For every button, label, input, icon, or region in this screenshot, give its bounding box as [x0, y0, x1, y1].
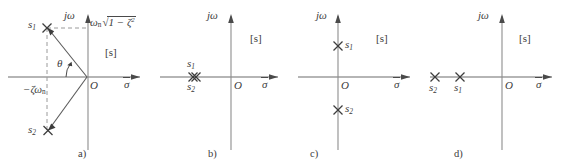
real-axis-label: σ [394, 79, 399, 90]
plane-label: [s] [519, 33, 531, 44]
real-axis-label: σ [536, 79, 541, 90]
imag-axis-arrowhead [335, 14, 341, 23]
panel-c-caption: c) [310, 148, 318, 159]
panel-c: jω σ [s] O s1 s2 c) [290, 0, 425, 168]
panel-d-caption: d) [454, 148, 463, 159]
pole-label-s1: s1 [345, 39, 353, 51]
real-axis-arrowhead [269, 74, 278, 80]
theta-arc-arrowhead [67, 62, 72, 67]
real-axis-label: σ [262, 79, 267, 90]
pole-label-s2-sub: 2 [349, 107, 353, 116]
pole-label-s2-sub: 2 [32, 128, 36, 137]
pole-label-s1: s1 [28, 19, 36, 31]
pole-label-s1: s1 [454, 82, 462, 94]
imag-axis-label: jω [64, 10, 75, 21]
square-root-expression: √1 − ζ2 [101, 16, 135, 28]
imag-axis-label: jω [478, 10, 489, 21]
pole-location-figure: jω σ [s] O s1 s2 θ −ζωn ωn√1 − ζ2 a) [0, 0, 566, 168]
sigma-glyph: σ [394, 79, 399, 90]
imag-axis-arrowhead [228, 14, 234, 23]
radicand-exponent: 2 [131, 16, 134, 23]
radius-vector-s1 [51, 32, 88, 78]
sigma-glyph: σ [124, 79, 129, 90]
origin-label: O [234, 80, 242, 91]
pole-label-s1: s1 [187, 58, 195, 70]
panel-c-axes [290, 0, 425, 168]
plane-label: [s] [250, 33, 262, 44]
sigma-glyph: σ [536, 79, 541, 90]
omega-n-base: ω [90, 16, 98, 28]
panel-d: jω σ [s] O s2 s1 d) [425, 0, 566, 168]
imag-axis-label: jω [207, 10, 218, 21]
pole-label-s1-sub: 1 [32, 23, 36, 32]
plane-label: [s] [376, 33, 388, 44]
imag-axis-arrowhead [499, 14, 505, 23]
sigma-glyph: σ [262, 79, 267, 90]
origin-label: O [90, 80, 98, 91]
radicand: 1 − ζ2 [107, 16, 135, 28]
pole-label-s2: s2 [429, 82, 437, 94]
panel-b: jω σ [s] O s1 s2 b) [150, 0, 290, 168]
real-axis-arrowhead [401, 74, 410, 80]
origin-label: O [505, 80, 513, 91]
pole-label-s2-sub: 2 [433, 86, 437, 95]
real-part-base: −ζω [23, 83, 42, 95]
real-part-sub: n [42, 88, 46, 96]
theta-label: θ [57, 58, 62, 69]
pole-label-s1-sub: 1 [458, 86, 462, 95]
panel-b-axes [150, 0, 290, 168]
pole-label-s2: s2 [187, 81, 195, 93]
imag-axis-label: jω [316, 10, 327, 21]
panel-a: jω σ [s] O s1 s2 θ −ζωn ωn√1 − ζ2 a) [0, 0, 150, 168]
pole-label-s2: s2 [28, 124, 36, 136]
panel-d-axes [425, 0, 566, 168]
pole-label-s2-sub: 2 [191, 85, 195, 94]
panel-a-caption: a) [78, 148, 86, 159]
panel-b-caption: b) [208, 148, 217, 159]
pole-label-s1-sub: 1 [191, 62, 195, 71]
pole-marker-s2 [44, 126, 53, 135]
imag-part-expression: ωn√1 − ζ2 [90, 16, 136, 30]
real-axis-label: σ [124, 79, 129, 90]
radicand-body: 1 − ζ [108, 16, 131, 28]
real-part-label: −ζωn [23, 84, 46, 97]
plane-label: [s] [105, 47, 117, 58]
real-axis-arrowhead [131, 74, 140, 80]
real-axis-arrowhead [543, 74, 552, 80]
pole-label-s1-sub: 1 [349, 43, 353, 52]
pole-label-s2: s2 [345, 103, 353, 115]
radius-vector-s2 [52, 77, 88, 126]
origin-label: O [341, 80, 349, 91]
